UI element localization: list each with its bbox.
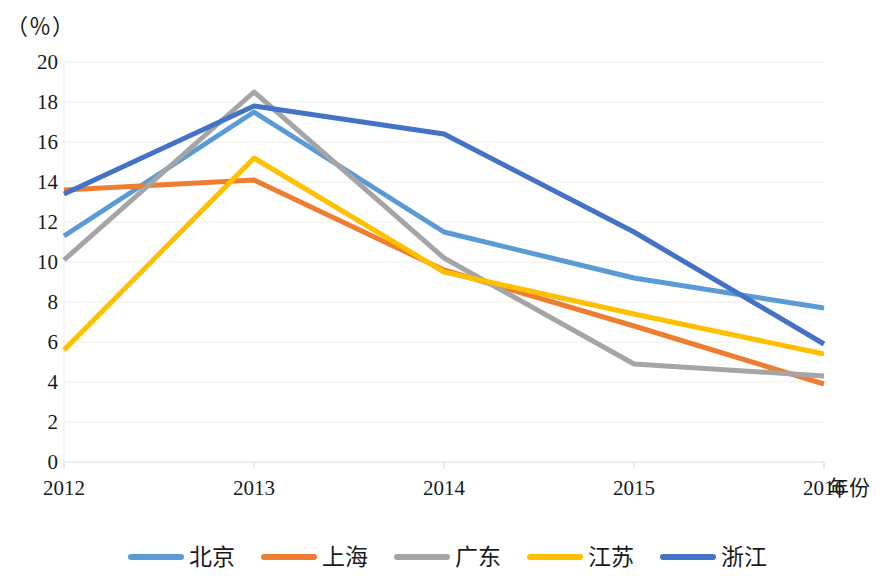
y-axis-tick-label: 10 — [14, 252, 58, 273]
line-chart: （％） 02468101214161820 201220132014201520… — [0, 0, 894, 576]
legend-swatch-icon — [527, 554, 583, 560]
y-axis-tick-label: 2 — [14, 412, 58, 433]
x-axis-tick-label: 2015 — [613, 478, 655, 499]
legend-label: 上海 — [322, 546, 368, 569]
series-line-上海 — [64, 180, 824, 384]
x-axis-title: 年份 — [828, 478, 870, 499]
legend-swatch-icon — [394, 554, 450, 560]
y-axis-tick-label: 12 — [14, 212, 58, 233]
series-line-浙江 — [64, 106, 824, 344]
legend-item-广东[interactable]: 广东 — [394, 546, 501, 569]
legend-label: 广东 — [455, 546, 501, 569]
legend-swatch-icon — [660, 554, 716, 560]
x-axis-tick-label: 2014 — [423, 478, 465, 499]
x-axis-tick-labels: 20122013201420152016 — [64, 478, 824, 510]
y-axis-tick-label: 14 — [14, 172, 58, 193]
x-axis-tick-label: 2013 — [233, 478, 275, 499]
chart-legend: 北京上海广东江苏浙江 — [0, 540, 894, 574]
y-axis-tick-labels: 02468101214161820 — [0, 62, 58, 462]
legend-label: 浙江 — [721, 546, 767, 569]
legend-swatch-icon — [128, 554, 184, 560]
plot-area — [64, 62, 824, 462]
legend-item-上海[interactable]: 上海 — [261, 546, 368, 569]
legend-swatch-icon — [261, 554, 317, 560]
legend-item-浙江[interactable]: 浙江 — [660, 546, 767, 569]
x-axis-tick-label: 2012 — [43, 478, 85, 499]
y-axis-tick-label: 20 — [14, 52, 58, 73]
legend-label: 北京 — [189, 546, 235, 569]
y-axis-tick-label: 6 — [14, 332, 58, 353]
y-axis-unit-label: （％） — [6, 8, 75, 40]
y-axis-tick-label: 4 — [14, 372, 58, 393]
legend-item-江苏[interactable]: 江苏 — [527, 546, 634, 569]
legend-label: 江苏 — [588, 546, 634, 569]
y-axis-tick-label: 0 — [14, 452, 58, 473]
series-lines — [64, 62, 824, 462]
y-axis-tick-label: 16 — [14, 132, 58, 153]
y-axis-tick-label: 18 — [14, 92, 58, 113]
legend-item-北京[interactable]: 北京 — [128, 546, 235, 569]
y-axis-tick-label: 8 — [14, 292, 58, 313]
